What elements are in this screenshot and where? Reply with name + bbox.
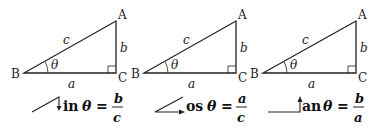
sin-mnemonic-icon <box>32 97 59 112</box>
formula-fn-tail: os <box>186 98 203 114</box>
right-angle-mark <box>348 66 356 73</box>
formula-fn-tail: in <box>63 98 79 114</box>
trig-ratios-diagram: B C A c b a θ in θ = b c B C A c b a θ o… <box>0 0 377 128</box>
triangle-outline <box>144 21 236 73</box>
side-a-label: a <box>68 77 75 91</box>
formula-equals: = <box>337 98 349 114</box>
vertex-b-label: B <box>11 67 20 81</box>
vertex-c-label: C <box>238 71 247 85</box>
formula-theta: θ <box>323 98 333 114</box>
formula-fn-tail: an <box>302 98 321 114</box>
vertex-c-label: C <box>358 71 367 85</box>
side-b-label: b <box>240 41 248 55</box>
cos-mnemonic-icon <box>155 97 183 112</box>
vertex-b-label: B <box>131 67 140 81</box>
side-b-label: b <box>360 41 368 55</box>
vertex-a-label: A <box>357 8 367 22</box>
tan-mnemonic-icon <box>268 100 300 112</box>
angle-arc <box>165 62 168 73</box>
side-c-label: c <box>63 33 70 47</box>
formula-numerator: b <box>355 91 364 106</box>
formula-equals: = <box>221 98 233 114</box>
vertex-b-label: B <box>250 67 259 81</box>
vertex-a-label: A <box>117 8 127 22</box>
angle-arc <box>45 62 48 73</box>
angle-theta-label: θ <box>51 58 59 72</box>
vertex-a-label: A <box>237 8 247 22</box>
vertex-c-label: C <box>118 71 127 85</box>
side-a-label: a <box>188 77 195 91</box>
side-a-label: a <box>308 77 315 91</box>
formula-theta: θ <box>82 98 92 114</box>
triangle-cos: B C A c b a θ os θ = a c <box>131 8 248 125</box>
angle-theta-label: θ <box>171 58 179 72</box>
side-c-label: c <box>183 33 190 47</box>
right-angle-mark <box>228 66 236 73</box>
formula-numerator: a <box>238 91 246 106</box>
side-b-label: b <box>120 41 128 55</box>
arrow-right-icon <box>179 110 185 115</box>
formula-denominator: c <box>113 110 121 125</box>
formula-denominator: c <box>237 110 245 125</box>
triangle-tan: B C A c b a θ an θ = b a <box>250 8 368 125</box>
triangle-sin: B C A c b a θ in θ = b c <box>11 8 128 125</box>
formula-equals: = <box>96 98 108 114</box>
triangle-outline <box>24 21 116 73</box>
angle-theta-label: θ <box>290 58 298 72</box>
angle-arc <box>284 62 287 73</box>
triangle-outline <box>263 21 356 73</box>
formula-denominator: a <box>354 110 362 125</box>
formula-numerator: b <box>114 91 123 106</box>
right-angle-mark <box>108 66 116 73</box>
formula-theta: θ <box>207 98 217 114</box>
arrow-down-icon <box>57 106 62 111</box>
side-c-label: c <box>302 33 309 47</box>
